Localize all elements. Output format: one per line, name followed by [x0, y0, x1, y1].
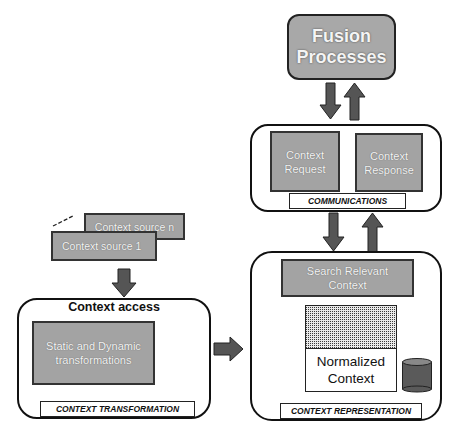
- search-relevant-context-box: Search Relevant Context: [281, 259, 414, 297]
- fusion-processes-box: Fusion Processes: [287, 14, 396, 80]
- context-request-label: Context Request: [280, 148, 330, 176]
- context-source-1-box: Context source 1: [51, 231, 157, 261]
- arrow-up-to-fusion-icon: [344, 83, 366, 121]
- context-request-box: Context Request: [270, 131, 340, 192]
- normalized-context-pattern: [305, 305, 397, 348]
- dashed-stack-line-icon: [52, 215, 74, 227]
- normalized-context-label: Normalized Context: [311, 353, 391, 387]
- context-transformation-label: CONTEXT TRANSFORMATION: [56, 404, 179, 414]
- communications-label: COMMUNICATIONS: [308, 196, 387, 206]
- context-representation-label-box: CONTEXT REPRESENTATION: [280, 403, 422, 419]
- search-relevant-context-label: Search Relevant Context: [298, 264, 398, 292]
- static-dynamic-transformations-label: Static and Dynamic transformations: [44, 339, 144, 367]
- arrow-right-to-representation-icon: [214, 336, 244, 362]
- arrow-down-to-transformation-icon: [111, 269, 137, 299]
- arrow-up-to-communications-icon: [362, 213, 384, 253]
- fusion-processes-label: Fusion Processes: [297, 26, 387, 68]
- context-access-title: Context access: [17, 300, 211, 314]
- communications-label-box: COMMUNICATIONS: [289, 193, 406, 209]
- context-response-box: Context Response: [355, 133, 423, 192]
- context-representation-label: CONTEXT REPRESENTATION: [291, 406, 411, 416]
- arrow-down-to-representation-icon: [323, 213, 345, 253]
- context-transformation-label-box: CONTEXT TRANSFORMATION: [40, 401, 195, 417]
- static-dynamic-transformations-box: Static and Dynamic transformations: [32, 321, 155, 385]
- arrow-down-to-communications-icon: [320, 83, 342, 121]
- database-cylinder-icon: [402, 358, 432, 392]
- normalized-context-box: Normalized Context: [305, 348, 397, 392]
- context-source-1-label: Context source 1: [62, 239, 141, 253]
- context-response-label: Context Response: [364, 149, 414, 177]
